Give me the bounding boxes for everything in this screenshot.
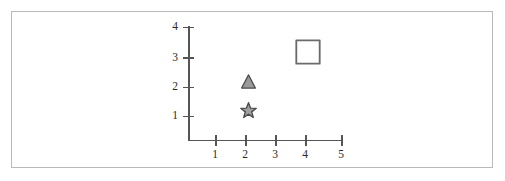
x-tick-2 [245,135,247,146]
x-tick-label-5: 5 [334,149,348,161]
x-tick-5 [341,135,343,146]
y-tick-2 [183,87,194,89]
square-marker [295,39,321,65]
x-tick-4 [305,135,307,146]
y-axis-line [188,26,190,141]
y-tick-label-2: 2 [164,81,178,93]
y-tick-label-4: 4 [164,21,178,33]
triangle-marker [241,74,256,89]
x-tick-label-2: 2 [238,149,252,161]
star-marker [240,102,257,119]
x-tick-label-1: 1 [208,149,222,161]
y-tick-label-3: 3 [164,52,178,64]
x-tick-1 [215,135,217,146]
y-tick-label-1: 1 [164,110,178,122]
figure-root: 4 3 2 1 1 2 3 4 5 [0,0,505,181]
x-axis-line [188,140,343,142]
plot-area: 4 3 2 1 1 2 3 4 5 [0,0,505,181]
y-tick-1 [183,116,194,118]
y-tick-4 [183,27,194,29]
x-tick-3 [275,135,277,146]
y-tick-3 [183,57,194,59]
x-tick-label-4: 4 [298,149,312,161]
x-tick-label-3: 3 [268,149,282,161]
